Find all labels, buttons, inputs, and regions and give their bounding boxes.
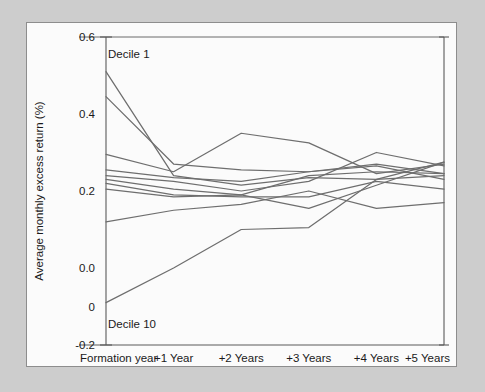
- x-tick-label: +5 Years: [405, 352, 450, 364]
- y-tick-label: 0.2: [79, 185, 95, 197]
- y-tick-label: 0: [89, 301, 95, 313]
- exhibit-panel: 0.60.40.20.00-0.2Average monthly excess …: [26, 22, 457, 367]
- y-tick-label: 0.4: [79, 108, 96, 120]
- series-line-1: [106, 72, 444, 186]
- series-line-9: [106, 191, 444, 222]
- x-tick-label: +2 Years: [219, 352, 264, 364]
- y-tick-label: -0.2: [75, 339, 95, 351]
- x-tick-label: +3 Years: [286, 352, 331, 364]
- y-tick-label: 0.0: [79, 262, 95, 274]
- series-line-3: [106, 133, 444, 173]
- decile-performance-line-chart: 0.60.40.20.00-0.2Average monthly excess …: [27, 23, 456, 366]
- series-annotation-2: Decile 10: [108, 318, 156, 330]
- y-axis-title: Average monthly excess return (%): [33, 101, 45, 281]
- x-tick-label: +1 Year: [154, 352, 194, 364]
- x-tick-label: +4 Years: [354, 352, 399, 364]
- y-tick-label: 0.6: [79, 31, 95, 43]
- series-line-2: [106, 97, 444, 174]
- x-tick-label: Formation year: [80, 352, 158, 364]
- series-annotation-1: Decile 1: [108, 48, 150, 60]
